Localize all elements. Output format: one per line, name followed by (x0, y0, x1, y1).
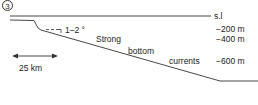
depth-200-label: −200 m (216, 24, 245, 34)
process-label-bottom: bottom (128, 46, 154, 56)
process-label-strong: Strong (96, 34, 121, 44)
slope-angle-label: 1–2 ° (65, 25, 85, 35)
scale-arrow-left-icon (12, 54, 18, 59)
process-label-currents: currents (169, 56, 200, 66)
scale-arrow-right-icon (52, 54, 58, 59)
sea-level-label: s.l (214, 11, 223, 21)
depth-600-label: −600 m (216, 56, 245, 66)
angle-mark-icon (58, 30, 61, 34)
scale-bar-label: 25 km (19, 63, 42, 73)
depth-400-label: −400 m (216, 34, 245, 44)
